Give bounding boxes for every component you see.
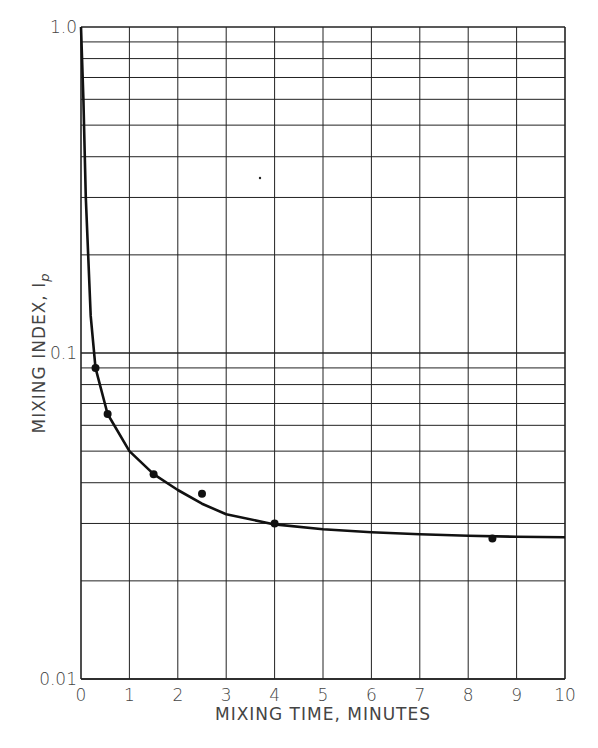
grid [81, 27, 565, 679]
x-tick-label: 1 [124, 685, 135, 705]
x-tick-label: 7 [414, 685, 425, 705]
data-point [104, 410, 112, 418]
x-tick-label: 8 [463, 685, 474, 705]
y-tick-label: 0.1 [50, 343, 77, 363]
data-point [488, 534, 496, 542]
data-point [198, 490, 206, 498]
chart: 012345678910 0.010.11.0 MIXING TIME, MIN… [0, 0, 598, 748]
x-tick-label: 5 [318, 685, 329, 705]
data-point [92, 364, 100, 372]
y-tick-label: 0.01 [39, 669, 77, 689]
data-point [271, 519, 279, 527]
x-tick-label: 3 [221, 685, 232, 705]
data-points [92, 364, 497, 542]
x-tick-label: 6 [366, 685, 377, 705]
x-tick-label: 2 [172, 685, 183, 705]
x-tick-label: 9 [511, 685, 522, 705]
y-axis-label: MIXING INDEX, Ip [29, 273, 52, 434]
x-tick-label: 4 [269, 685, 280, 705]
x-tick-label: 0 [76, 685, 87, 705]
x-tick-labels: 012345678910 [76, 685, 576, 705]
speck [259, 177, 261, 179]
data-point [150, 470, 158, 478]
x-tick-label: 10 [554, 685, 576, 705]
y-tick-label: 1.0 [50, 17, 77, 37]
x-axis-label: MIXING TIME, MINUTES [215, 704, 431, 724]
